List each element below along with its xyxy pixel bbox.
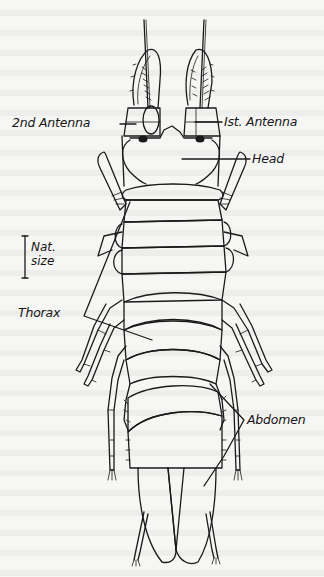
anterior-side-limbs	[98, 152, 246, 210]
label-abdomen: Abdomen	[247, 414, 305, 427]
thorax-segments	[114, 184, 234, 384]
head-group	[122, 126, 220, 186]
label-2nd-antenna: 2nd Antenna	[12, 117, 90, 130]
isopod-illustration	[0, 0, 324, 577]
right-antenna-group	[184, 20, 220, 136]
scale-line-2: size	[31, 254, 56, 268]
scale-bar-label: Nat. size	[31, 240, 56, 268]
leader-thorax	[84, 202, 152, 340]
scale-line-1: Nat.	[31, 240, 56, 254]
label-thorax: Thorax	[18, 307, 60, 320]
label-1st-antenna: Ist. Antenna	[224, 116, 297, 129]
label-head: Head	[252, 153, 284, 166]
right-thoracic-legs	[216, 232, 272, 480]
scale-bar	[22, 236, 28, 278]
left-antenna-group	[124, 20, 161, 136]
